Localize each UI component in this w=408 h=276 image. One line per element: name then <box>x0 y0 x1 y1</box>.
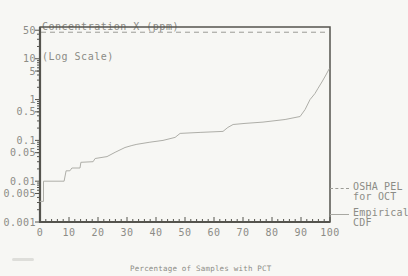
y-tick-label: 0.5 <box>16 106 36 117</box>
y-tick-label: 10 <box>23 53 36 64</box>
x-tick-label: 70 <box>236 227 249 238</box>
y-tick-label: 0.1 <box>16 135 36 146</box>
legend-osha-line2: for OCT <box>353 191 397 202</box>
y-tick-label: 1 <box>29 94 36 105</box>
cdf-chart-figure: Concentration X (ppm) (Log Scale) 501051… <box>0 0 408 276</box>
x-tick-label: 20 <box>91 227 104 238</box>
legend: OSHA PELfor OCT EmpiricalCDF <box>330 182 408 234</box>
plot-area: 5010510.50.10.050.010.0050.0010102030405… <box>0 0 408 276</box>
plot-box <box>40 27 330 222</box>
legend-item-osha-pel: OSHA PELfor OCT <box>330 182 408 201</box>
empirical-cdf-curve <box>40 69 329 201</box>
x-tick-label: 0 <box>37 227 44 238</box>
x-tick-label: 10 <box>62 227 75 238</box>
legend-cdf-line2: CDF <box>353 217 372 228</box>
x-tick-label: 80 <box>265 227 278 238</box>
x-axis-label-line1: Percentage of Samples with PCT <box>130 265 271 273</box>
x-tick-label: 50 <box>178 227 191 238</box>
x-tick-label: 60 <box>207 227 220 238</box>
axis-lines <box>40 27 330 222</box>
x-axis-label: Percentage of Samples with PCT Concentra… <box>130 249 271 276</box>
y-tick-label: 0.05 <box>10 147 36 158</box>
x-tick-label: 90 <box>294 227 307 238</box>
legend-cdf-text: EmpiricalCDF <box>353 208 408 227</box>
x-tick-label: 30 <box>120 227 133 238</box>
scan-artifact <box>12 258 34 261</box>
y-tick-label: 5 <box>29 66 36 77</box>
x-tick-label: 40 <box>149 227 162 238</box>
y-tick-label: 0.001 <box>3 217 36 228</box>
dashed-line-sample-icon <box>330 188 349 190</box>
legend-item-empirical-cdf: EmpiricalCDF <box>330 208 408 227</box>
y-tick-label: 0.005 <box>3 188 36 199</box>
solid-line-sample-icon <box>330 214 349 216</box>
legend-osha-text: OSHA PELfor OCT <box>353 182 403 201</box>
y-tick-label: 50 <box>23 25 36 36</box>
y-tick-label: 0.01 <box>10 176 36 187</box>
